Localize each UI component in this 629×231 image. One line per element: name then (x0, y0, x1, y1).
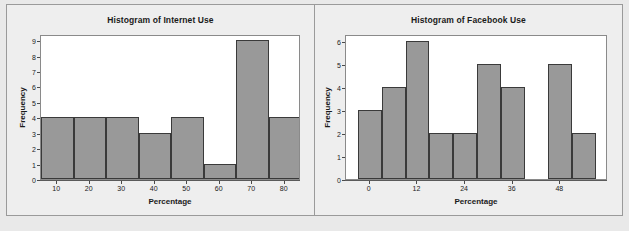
x-tick-mark (369, 181, 370, 184)
x-axis-line (345, 180, 607, 181)
figure-root: Histogram of Internet Use 01234567891020… (0, 0, 629, 231)
y-tick-mark (37, 165, 40, 166)
x-axis-line (40, 180, 300, 181)
y-tick-mark (342, 111, 345, 112)
y-tick-mark (37, 57, 40, 58)
histogram-bar (171, 117, 204, 179)
y-tick-mark (37, 118, 40, 119)
x-tick-label: 0 (367, 185, 371, 192)
histogram-bar (406, 41, 430, 179)
x-tick-label: 36 (508, 185, 516, 192)
x-tick-mark (464, 181, 465, 184)
y-tick-label: 4 (26, 115, 36, 122)
x-axis-label: Percentage (148, 197, 191, 206)
histogram-bar (477, 64, 501, 179)
y-tick-label: 0 (26, 177, 36, 184)
y-tick-label: 2 (26, 146, 36, 153)
x-tick-label: 20 (85, 185, 93, 192)
x-tick-mark (559, 181, 560, 184)
histogram-bar (74, 117, 107, 179)
y-tick-label: 8 (26, 53, 36, 60)
x-tick-label: 10 (52, 185, 60, 192)
y-tick-label: 1 (331, 153, 341, 160)
x-tick-label: 24 (460, 185, 468, 192)
y-tick-label: 1 (26, 161, 36, 168)
histogram-bar (501, 87, 525, 179)
bar-series (41, 36, 299, 179)
x-tick-mark (416, 181, 417, 184)
y-tick-mark (342, 88, 345, 89)
histogram-bar (106, 117, 139, 179)
plot-area (345, 35, 607, 180)
x-tick-label: 60 (215, 185, 223, 192)
y-tick-label: 9 (26, 38, 36, 45)
chart-panel-internet-use: Histogram of Internet Use 01234567891020… (7, 5, 314, 215)
y-tick-label: 7 (26, 69, 36, 76)
histogram-bar (269, 117, 301, 179)
plot-wrap-internet-use: 01234567891020304050607080PercentageFreq… (7, 5, 314, 215)
x-tick-label: 70 (247, 185, 255, 192)
histogram-bar (358, 110, 382, 179)
x-tick-mark (186, 181, 187, 184)
x-tick-label: 50 (182, 185, 190, 192)
y-tick-mark (37, 103, 40, 104)
y-tick-label: 6 (26, 84, 36, 91)
histogram-bar (41, 117, 74, 179)
y-tick-label: 5 (331, 61, 341, 68)
x-tick-label: 40 (150, 185, 158, 192)
x-tick-label: 12 (413, 185, 421, 192)
plot-area (40, 35, 300, 180)
x-tick-mark (121, 181, 122, 184)
histogram-bar (236, 40, 269, 179)
x-tick-label: 48 (555, 185, 563, 192)
histogram-bar (548, 64, 572, 179)
y-tick-label: 3 (331, 107, 341, 114)
y-tick-mark (37, 41, 40, 42)
histogram-bar (572, 133, 596, 179)
y-tick-label: 6 (331, 38, 341, 45)
chart-panel-facebook-use: Histogram of Facebook Use 01234560122436… (315, 5, 622, 215)
y-tick-mark (37, 134, 40, 135)
y-tick-mark (342, 42, 345, 43)
x-tick-label: 80 (280, 185, 288, 192)
x-tick-mark (284, 181, 285, 184)
y-tick-label: 5 (26, 99, 36, 106)
y-tick-mark (37, 72, 40, 73)
x-tick-mark (512, 181, 513, 184)
x-tick-mark (251, 181, 252, 184)
histogram-bar (453, 133, 477, 179)
y-axis-label: Frequency (323, 77, 332, 137)
x-tick-mark (154, 181, 155, 184)
y-tick-label: 0 (331, 177, 341, 184)
histogram-bar (139, 133, 172, 179)
y-tick-label: 3 (26, 130, 36, 137)
histogram-bar (204, 164, 237, 179)
y-tick-label: 4 (331, 84, 341, 91)
y-tick-mark (37, 149, 40, 150)
x-tick-mark (219, 181, 220, 184)
y-tick-label: 2 (331, 130, 341, 137)
figure-frame: Histogram of Internet Use 01234567891020… (6, 4, 623, 216)
y-tick-mark (342, 134, 345, 135)
x-tick-label: 30 (117, 185, 125, 192)
y-tick-mark (342, 157, 345, 158)
y-tick-mark (342, 65, 345, 66)
x-tick-mark (89, 181, 90, 184)
bar-series (346, 36, 606, 179)
x-tick-mark (56, 181, 57, 184)
histogram-bar (382, 87, 406, 179)
x-axis-label: Percentage (454, 197, 497, 206)
plot-wrap-facebook-use: 0123456012243648PercentageFrequency (315, 5, 622, 215)
y-tick-mark (37, 87, 40, 88)
y-axis-label: Frequency (18, 77, 27, 137)
histogram-bar (429, 133, 453, 179)
